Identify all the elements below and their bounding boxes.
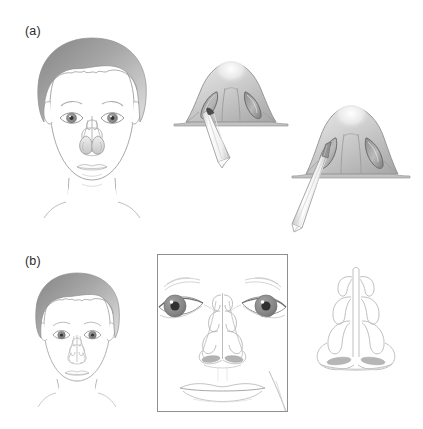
panel-b: (b) — [0, 235, 423, 429]
facial-closeup-boxed — [157, 254, 288, 412]
panel-b-label: (b) — [25, 254, 41, 268]
figure-container: (a) — [0, 0, 423, 429]
nose-base-view-with-instrument-deep — [286, 100, 418, 235]
frontal-face-small — [24, 267, 130, 407]
panel-a: (a) — [0, 0, 423, 235]
nasal-septum-turbinate-diagram — [304, 265, 408, 377]
frontal-face-with-nasal-polyps — [22, 28, 162, 218]
nose-base-view-with-instrument-shallow — [172, 58, 290, 186]
